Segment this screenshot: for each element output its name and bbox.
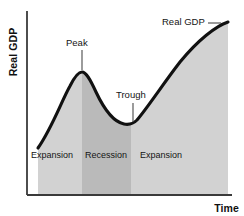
curve-fill-group: [27, 10, 231, 195]
series-label-real-gdp: Real GDP: [162, 16, 205, 27]
business-cycle-chart: Real GDP Time Real GDP Peak Trough Expan…: [0, 0, 244, 216]
y-axis-title: Real GDP: [7, 22, 19, 82]
peak-label: Peak: [66, 37, 88, 48]
x-axis-title: Time: [214, 202, 239, 214]
phase-label-expansion-second: Expansion: [140, 150, 182, 160]
phase-label-expansion-first: Expansion: [31, 150, 73, 160]
chart-canvas: [0, 0, 244, 216]
phase-label-recession: Recession: [85, 150, 127, 160]
trough-label: Trough: [116, 89, 146, 100]
recession-shade-area: [82, 10, 131, 195]
